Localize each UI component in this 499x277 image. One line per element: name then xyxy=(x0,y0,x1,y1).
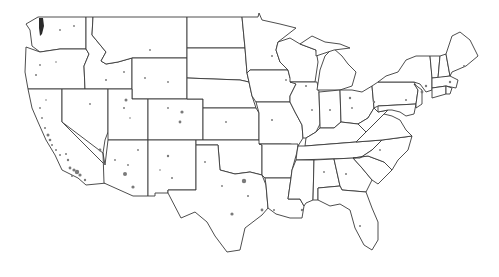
state-maine xyxy=(446,32,478,76)
us-map xyxy=(0,0,499,277)
state-south-dakota xyxy=(187,48,249,82)
state-oregon xyxy=(25,47,89,89)
state-kansas xyxy=(203,108,259,140)
state-washington xyxy=(26,17,86,52)
state-arizona xyxy=(103,140,148,196)
state-iowa xyxy=(247,70,296,102)
state-colorado xyxy=(148,99,203,140)
us-states-svg xyxy=(0,0,499,277)
state-new-mexico xyxy=(148,140,196,196)
state-michigan xyxy=(317,48,356,90)
state-north-dakota xyxy=(187,17,245,48)
state-florida xyxy=(318,186,378,250)
state-connecticut xyxy=(432,86,446,98)
state-boundaries xyxy=(25,13,478,252)
state-montana xyxy=(92,17,187,64)
state-wyoming xyxy=(132,58,187,99)
